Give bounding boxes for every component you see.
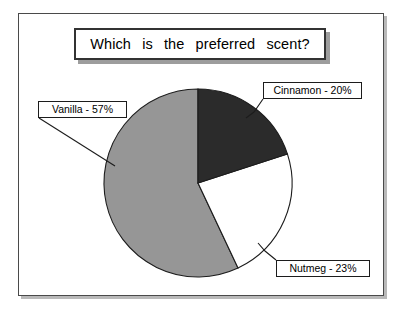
slice-label-cinnamon-text: Cinnamon - 20%	[273, 85, 351, 96]
slice-label-nutmeg-text: Nutmeg - 23%	[289, 263, 356, 274]
slice-label-cinnamon: Cinnamon - 20%	[263, 82, 362, 99]
slice-label-nutmeg: Nutmeg - 23%	[276, 260, 370, 277]
page-title: Which is the preferred scent?	[90, 37, 310, 52]
chart-title-box: Which is the preferred scent?	[74, 28, 326, 60]
slice-label-vanilla-text: Vanilla - 57%	[52, 104, 113, 115]
slice-label-vanilla: Vanilla - 57%	[38, 101, 127, 118]
pie-chart-screenshot: Which is the preferred scent? Cinnamon -…	[0, 0, 403, 318]
